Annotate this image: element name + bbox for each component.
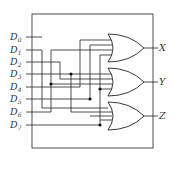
label-x: X: [158, 42, 167, 53]
junction-dots: [49, 72, 101, 126]
output-labels: X Y Z: [158, 42, 167, 121]
label-d1: D1: [9, 44, 21, 56]
label-y: Y: [159, 76, 167, 87]
label-z: Z: [158, 110, 166, 121]
label-d7: D7: [9, 119, 22, 131]
label-d6: D6: [9, 106, 22, 118]
label-d3: D3: [9, 68, 22, 80]
label-d0: D0: [9, 31, 22, 43]
or-gate-x: [108, 34, 153, 62]
label-d4: D4: [9, 81, 22, 93]
or-gate-y: [108, 68, 153, 96]
encoder-diagram: D0 D1 D2 D3 D4 D5 D6 D7 X Y Z: [0, 0, 178, 170]
input-labels: D0 D1 D2 D3 D4 D5 D6 D7: [9, 31, 22, 131]
label-d2: D2: [9, 56, 22, 68]
label-d5: D5: [9, 93, 22, 105]
or-gate-z: [108, 102, 153, 130]
wiring: [42, 40, 112, 125]
